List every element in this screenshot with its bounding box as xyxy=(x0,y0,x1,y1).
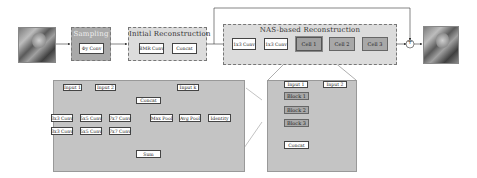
cell-3-box: Cell 3 xyxy=(362,37,388,51)
sampling-group: Sampling Φy Conv xyxy=(71,27,111,61)
initial-reconstruction-group: Initial Reconstruction BMR Conv Concat xyxy=(128,27,207,61)
cell-block-1: Block 1 xyxy=(284,92,309,100)
conv-1x3-box-1: 1x3 Conv xyxy=(232,38,256,50)
op-7x7-conv-1: 7x7 Conv xyxy=(109,114,131,122)
adder-symbol: + xyxy=(405,38,415,50)
input-image xyxy=(18,27,56,63)
cell-input-1: Input 1 xyxy=(284,81,308,88)
cell-1-box: Cell 1 xyxy=(296,37,322,51)
phi-conv-box: Φy Conv xyxy=(79,43,104,54)
op-5x5-conv-1: 5x5 Conv xyxy=(80,114,102,122)
cell-input-2: Input 2 xyxy=(323,81,347,88)
block-input-1: Input 1 xyxy=(63,84,82,91)
expand-line-block xyxy=(244,122,262,148)
bmr-conv-box: BMR Conv xyxy=(139,43,164,54)
op-5x5-conv-2: 5x5 Conv xyxy=(80,127,102,135)
cell-block-3: Block 3 xyxy=(284,119,309,127)
op-avg-pool: Avg Pool xyxy=(179,114,201,122)
block-input-k: Input k xyxy=(177,84,199,91)
cell-concat: Concat xyxy=(284,141,309,149)
conv-1x3-box-2: 1x3 Conv xyxy=(264,38,288,50)
block-concat: Concat xyxy=(136,97,161,104)
block-input-2: Input 2 xyxy=(95,84,116,91)
expand-line-block-2 xyxy=(246,88,262,100)
nas-title: NAS-based Reconstruction xyxy=(224,26,396,34)
sampling-title: Sampling xyxy=(72,30,110,38)
concat-box: Concat xyxy=(172,43,197,54)
op-3x3-conv-2: 3x3 Conv xyxy=(51,127,73,135)
cell-detail-panel xyxy=(267,80,357,172)
op-identity: Identity xyxy=(208,114,231,122)
block-sum: Sum xyxy=(136,150,161,158)
op-3x3-conv-1: 3x3 Conv xyxy=(51,114,73,122)
cell-block-2: Block 2 xyxy=(284,106,309,114)
op-7x7-conv-2: 7x7 Conv xyxy=(109,127,131,135)
cell-2-box: Cell 2 xyxy=(329,37,355,51)
output-image xyxy=(423,26,459,64)
block-detail-panel xyxy=(53,80,245,172)
initial-title: Initial Reconstruction xyxy=(129,30,206,38)
op-max-pool: Max Pool xyxy=(150,114,173,122)
